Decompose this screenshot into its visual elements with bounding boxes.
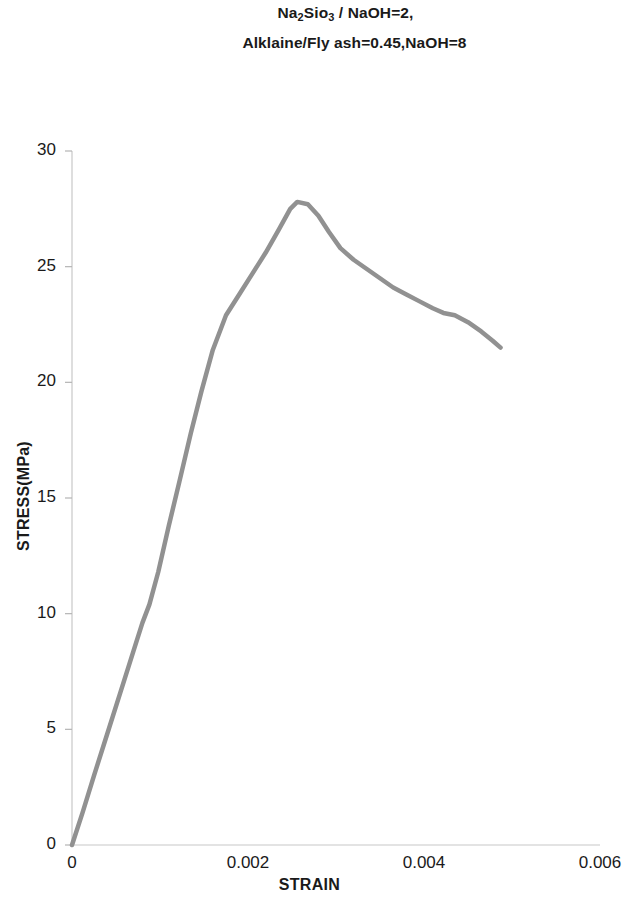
y-axis-tick-label: 5 — [16, 718, 56, 738]
x-axis-tick-label: 0.006 — [560, 853, 626, 873]
y-axis-tick-label: 0 — [16, 834, 56, 854]
y-axis-tick-label: 25 — [16, 256, 56, 276]
x-axis-tick-label: 0.004 — [384, 853, 464, 873]
y-axis-ticks — [65, 151, 72, 845]
x-axis-title: STRAIN — [0, 876, 613, 894]
y-axis-tick-label: 30 — [16, 140, 56, 160]
x-axis-tick-label: 0.002 — [208, 853, 288, 873]
x-axis-tick-label: 0 — [32, 853, 112, 873]
y-axis-title: STRESS(MPa) — [15, 386, 33, 606]
data-series-line — [72, 202, 501, 845]
